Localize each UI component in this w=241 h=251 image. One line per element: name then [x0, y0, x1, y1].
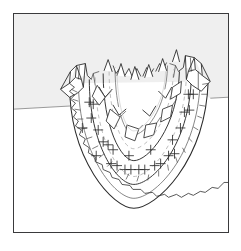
figure-frame [13, 13, 229, 233]
figure-page: Semicircular excavated earthwork, isomet… [0, 0, 241, 251]
figure-caption [0, 0, 1, 1]
earthwork-illustration [14, 14, 228, 232]
page-title: Semicircular excavated earthwork, isomet… [0, 21, 1, 22]
